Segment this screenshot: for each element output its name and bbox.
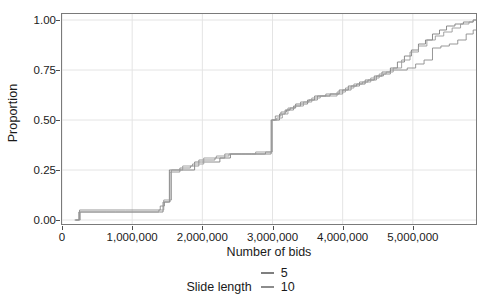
y-tick-label: 0.00 [20, 214, 56, 226]
y-tick-mark [56, 170, 60, 171]
series-line-10 [75, 30, 476, 220]
y-axis-ticks: 0.000.250.500.751.00 [18, 0, 56, 296]
y-tick-mark [56, 70, 60, 71]
x-tick-mark [413, 226, 414, 230]
legend-items: 51020 [261, 266, 305, 296]
x-tick-label: 5,000,000 [387, 231, 438, 243]
x-tick-label: 2,000,000 [177, 231, 228, 243]
y-tick-mark [56, 120, 60, 121]
legend-item-5[interactable]: 5 [261, 266, 305, 280]
legend-label: 10 [281, 280, 295, 294]
x-tick-mark [62, 226, 63, 230]
y-tick-label: 0.50 [20, 114, 56, 126]
y-tick-mark [56, 20, 60, 21]
x-tick-label: 4,000,000 [317, 231, 368, 243]
plot-panel [61, 13, 477, 225]
chart-legend: Slide length 51020 [0, 266, 491, 296]
y-tick-label: 0.75 [20, 64, 56, 76]
x-axis-title: Number of bids [61, 245, 477, 259]
x-tick-mark [202, 226, 203, 230]
legend-item-10[interactable]: 10 [261, 280, 305, 294]
x-tick-label: 0 [59, 231, 65, 243]
legend-label: 5 [281, 266, 288, 280]
x-tick-label: 3,000,000 [247, 231, 298, 243]
plot-area [62, 14, 476, 224]
x-tick-mark [343, 226, 344, 230]
legend-title: Slide length [186, 280, 251, 294]
chart-figure: Proportion 0.000.250.500.751.00 01,000,0… [0, 0, 491, 296]
x-tick-label: 1,000,000 [107, 231, 158, 243]
x-tick-mark [273, 226, 274, 230]
x-tick-mark [132, 226, 133, 230]
legend-key-line-icon [261, 286, 274, 288]
y-tick-label: 1.00 [20, 14, 56, 26]
legend-key-line-icon [261, 272, 274, 274]
y-tick-label: 0.25 [20, 164, 56, 176]
y-tick-mark [56, 220, 60, 221]
